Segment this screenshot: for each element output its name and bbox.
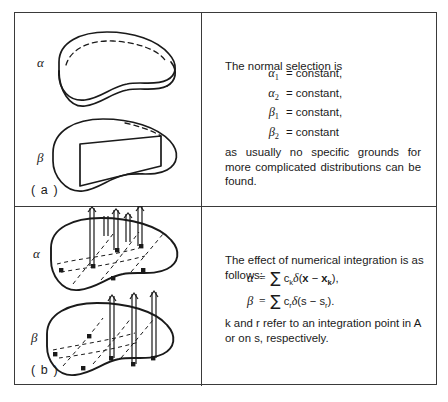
equation-argument-point: xk (321, 272, 331, 284)
equation-value: constant (296, 126, 339, 138)
equation-relation: = (259, 295, 266, 308)
panel-b-note-text: k and r refer to an integration point in… (225, 316, 433, 345)
equation-paren-close: ), (332, 272, 339, 284)
beta-cut-plane (80, 136, 161, 186)
panel-a-text-cell: The normal selection is α1= constant, α2… (201, 13, 438, 206)
panel-b-equation-block: α=∑ckδ(x − xk), β=∑crδ(s − sr). (247, 269, 427, 315)
equation-subscript: 2 (275, 132, 279, 141)
panel-a-note-text: as usually no specific grounds for more … (225, 145, 421, 189)
equation-row: β=∑crδ(s − sr). (247, 292, 427, 315)
equation-lhs: α (247, 269, 259, 288)
equation-relation-value: = constant, (286, 66, 342, 81)
alpha-top-surface (59, 32, 175, 100)
equation-relation-value: = constant (286, 125, 339, 140)
beta-domain-outline (53, 119, 176, 191)
equation-symbol: β1 (253, 105, 279, 125)
panel-b-label: ( b ) (31, 363, 59, 377)
equation-relation-value: = constant, (286, 86, 342, 101)
beta-label-panel-b: β (30, 330, 38, 345)
panel-a-diagram-cell: α β ( a ) (15, 13, 201, 206)
equation-row: β1= constant, (253, 105, 423, 125)
equation-subscript: 1 (275, 113, 279, 122)
equation-lhs: β (247, 292, 259, 311)
equation-coefficient: ck (284, 272, 293, 284)
summation-icon: ∑ (271, 292, 281, 311)
alpha-grid-lines (57, 232, 163, 284)
equation-symbol: α1 (253, 66, 279, 86)
alpha-label-panel-a: α (37, 55, 45, 70)
figure-frame: α β ( a ) The normal selection is α1= co… (14, 12, 437, 385)
panel-a-diagram: α β (15, 13, 201, 206)
equation-argument-point: sr (319, 295, 327, 307)
equation-relation: = (259, 272, 266, 285)
equation-value: constant, (296, 87, 342, 99)
beta-label-panel-a: β (36, 150, 44, 165)
equation-minus: − (309, 272, 322, 284)
equation-symbol: β2 (253, 125, 279, 145)
equation-coefficient: cr (284, 295, 292, 307)
equation-row: β2= constant (253, 125, 423, 145)
alpha-hidden-contour (66, 41, 165, 65)
equation-subscript: 2 (275, 93, 279, 102)
panel-b-diagram-cell: α (15, 206, 201, 386)
panel-b-text-cell: The effect of numerical integration is a… (201, 206, 438, 386)
equation-minus: − (307, 295, 320, 307)
panel-b-diagram: α (15, 206, 201, 386)
equation-row: α1= constant, (253, 66, 423, 86)
panel-a-equation-list: α1= constant, α2= constant, β1= constant… (253, 66, 423, 145)
equation-symbol: α2 (253, 86, 279, 106)
equation-paren-close: ). (328, 295, 335, 307)
equation-row: α=∑ckδ(x − xk), (247, 269, 427, 292)
beta-delta-spikes (108, 291, 158, 364)
equation-value: constant, (296, 67, 342, 79)
equation-relation-value: = constant, (286, 105, 342, 120)
alpha-label-panel-b: α (33, 246, 41, 261)
equation-row: α2= constant, (253, 86, 423, 106)
panel-a-label: ( a ) (31, 183, 59, 197)
equation-value: constant, (296, 106, 342, 118)
summation-icon: ∑ (271, 269, 281, 288)
equation-subscript: 1 (275, 73, 279, 82)
